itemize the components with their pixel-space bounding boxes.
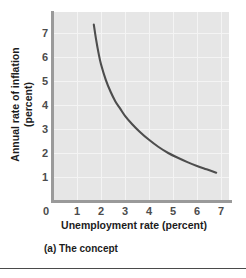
y-tick-label-1: 1 [34, 171, 48, 183]
x-tick-label-5: 5 [166, 205, 180, 217]
y-tick-label-3: 3 [34, 123, 48, 135]
x-tick-label-7: 7 [214, 205, 228, 217]
x-tick-label-0: 0 [39, 205, 53, 217]
x-tick-label-2: 2 [94, 205, 108, 217]
figure-caption: (a) The concept [44, 243, 118, 254]
y-tick-label-5: 5 [34, 75, 48, 87]
x-axis-line [51, 200, 232, 203]
plot-area [53, 12, 229, 201]
x-axis-title: Unemployment rate (percent) [34, 219, 234, 231]
x-tick-label-6: 6 [190, 205, 204, 217]
y-axis-title-line-1: Annual rate of inflation [9, 40, 22, 170]
x-tick-label-3: 3 [118, 205, 132, 217]
y-axis-line [51, 11, 54, 202]
bottom-divider-rule [0, 268, 246, 269]
y-tick-label-4: 4 [34, 99, 48, 111]
x-tick-label-1: 1 [70, 205, 84, 217]
phillips-curve-line [53, 12, 229, 201]
y-tick-label-7: 7 [34, 27, 48, 39]
x-tick-label-4: 4 [142, 205, 156, 217]
y-tick-label-6: 6 [34, 51, 48, 63]
y-axis-title-line-2: (percent) [21, 40, 34, 170]
y-tick-label-2: 2 [34, 147, 48, 159]
y-axis-title: Annual rate of inflation (percent) [9, 40, 34, 170]
phillips-curve-figure: 7 6 5 4 3 2 1 0 1 2 3 4 5 6 7 Annual rat… [0, 0, 246, 278]
